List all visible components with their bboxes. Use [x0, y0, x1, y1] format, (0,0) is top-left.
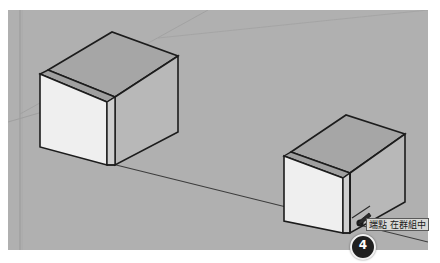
inference-tooltip-label: 端點 在群組中: [369, 219, 426, 233]
step-badge: 4: [350, 234, 376, 260]
horizon-guide-line: [158, 10, 428, 38]
app-root: 端點 在群組中 4: [0, 0, 440, 263]
step-badge-number: 4: [359, 238, 367, 252]
cube-group-1[interactable]: [40, 32, 178, 165]
cube-group-2[interactable]: [284, 115, 405, 233]
inference-tooltip: 端點 在群組中: [366, 218, 429, 231]
group1-slab-side-face: [107, 97, 115, 165]
group2-slab-side-face: [343, 173, 350, 233]
